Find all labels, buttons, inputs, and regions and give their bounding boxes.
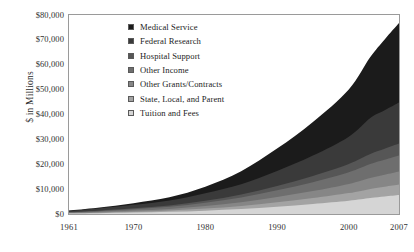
x-axis-tick-label: 1980 xyxy=(196,222,214,232)
legend-item[interactable]: Hospital Support xyxy=(128,49,278,63)
legend-item[interactable]: Medical Service xyxy=(128,20,278,34)
x-axis-tick-label: 2000 xyxy=(340,222,358,232)
legend-item[interactable]: Federal Research xyxy=(128,34,278,48)
legend-item[interactable]: State, Local, and Parent xyxy=(128,91,278,105)
legend-item-label: Other Income xyxy=(140,65,189,75)
legend-swatch-icon xyxy=(128,53,134,59)
legend-item[interactable]: Tuition and Fees xyxy=(128,106,278,120)
legend-swatch-icon xyxy=(128,67,134,73)
x-axis-tick-label: 1961 xyxy=(60,222,78,232)
x-axis-tick-label: 1970 xyxy=(125,222,143,232)
legend-item-label: Other Grants/Contracts xyxy=(140,79,222,89)
x-axis-tick-label: 1990 xyxy=(268,222,286,232)
legend-item-label: Federal Research xyxy=(140,36,201,46)
legend-swatch-icon xyxy=(128,81,134,87)
legend-swatch-icon xyxy=(128,110,134,116)
legend-swatch-icon xyxy=(128,38,134,44)
legend-swatch-icon xyxy=(128,24,134,30)
legend-swatch-icon xyxy=(128,96,134,102)
legend-item-label: Medical Service xyxy=(140,22,198,32)
chart-figure: $ in Millions $0$10,000$20,000$30,000$40… xyxy=(0,0,414,252)
chart-legend: Medical ServiceFederal ResearchHospital … xyxy=(128,20,278,120)
legend-item-label: State, Local, and Parent xyxy=(140,94,224,104)
legend-item-label: Hospital Support xyxy=(140,51,200,61)
x-axis-tick-label: 2007 xyxy=(390,222,408,232)
legend-item-label: Tuition and Fees xyxy=(140,108,199,118)
legend-item[interactable]: Other Grants/Contracts xyxy=(128,77,278,91)
legend-item[interactable]: Other Income xyxy=(128,63,278,77)
